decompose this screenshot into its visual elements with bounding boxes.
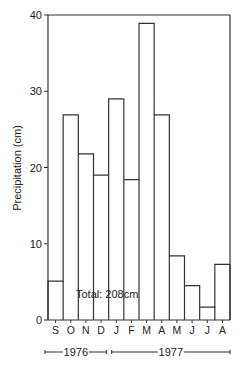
- x-tick-label: J: [114, 324, 119, 336]
- x-tick-label: D: [97, 324, 105, 336]
- x-tick-label: S: [52, 324, 59, 336]
- x-axis-ticks: SONDJFMAMJJA: [52, 320, 226, 336]
- x-tick-label: J: [205, 324, 210, 336]
- y-axis-ticks: 010203040: [30, 9, 48, 326]
- y-tick-label: 30: [30, 85, 42, 97]
- x-tick-label: A: [158, 324, 165, 336]
- x-tick-label: J: [189, 324, 194, 336]
- year-ranges: 19761977: [45, 346, 230, 358]
- year-label: 1977: [159, 346, 183, 358]
- y-axis-label: Precipitation (cm): [11, 125, 23, 211]
- x-tick-label: F: [128, 324, 134, 336]
- x-tick-label: A: [219, 324, 226, 336]
- year-label: 1976: [64, 346, 88, 358]
- y-tick-label: 0: [36, 314, 42, 326]
- x-tick-label: N: [82, 324, 90, 336]
- y-tick-label: 40: [30, 9, 42, 21]
- x-tick-label: O: [67, 324, 75, 336]
- x-tick-label: M: [142, 324, 151, 336]
- total-annotation: Total: 208cm: [76, 288, 138, 300]
- bars: [48, 23, 230, 320]
- y-tick-label: 20: [30, 162, 42, 174]
- y-tick-label: 10: [30, 238, 42, 250]
- precipitation-chart: 010203040 SONDJFMAMJJA Precipitation (cm…: [0, 0, 240, 365]
- x-tick-label: M: [173, 324, 182, 336]
